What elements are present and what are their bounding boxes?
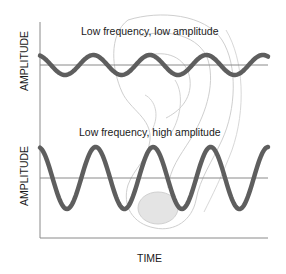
x-axis-label: TIME — [137, 252, 162, 264]
top-panel-title: Low frequency, low amplitude — [81, 25, 219, 37]
top-y-axis-label: AMPLITUDE — [18, 31, 30, 91]
sound-wave-diagram: Low frequency, low amplitude Low frequen… — [0, 0, 286, 274]
bottom-y-axis-label: AMPLITUDE — [18, 146, 30, 206]
bottom-panel-title: Low frequency, high amplitude — [79, 126, 221, 138]
